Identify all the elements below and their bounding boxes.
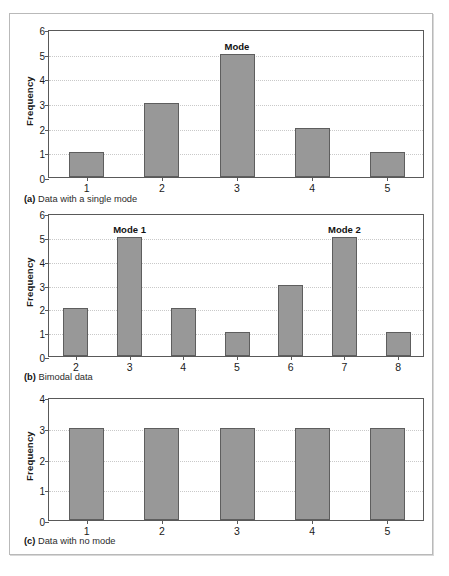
y-axis-tick-mark [45,215,49,216]
y-axis-tick-mark [45,56,49,57]
panel-caption-a: (a) Data with a single mode [24,194,137,204]
y-axis-tick-mark [45,334,49,335]
plot-area-a: 012345612345Mode [48,30,424,178]
x-axis-tick-mark [312,177,313,181]
y-axis-tick-mark [45,287,49,288]
x-axis-tick-mark [398,356,399,360]
x-axis-tick-mark [87,520,88,524]
bar [278,285,303,357]
plot-area-b: 01234562345678Mode 1Mode 2 [48,214,424,357]
bar [63,308,88,356]
x-axis-tick-label: 1 [84,182,90,194]
x-axis-tick-mark [387,520,388,524]
panel-caption-label-c: (c) [24,536,35,546]
figure-frame: Frequency 012345612345Mode (a) Data with… [9,13,433,555]
bar-annotation: Mode 2 [328,224,361,235]
x-axis-tick-label: 5 [384,182,390,194]
chart-panel-a: Frequency 012345612345Mode (a) Data with… [10,18,434,208]
x-axis-tick-label: 3 [127,361,133,373]
x-axis-tick-label: 6 [288,361,294,373]
x-axis-tick-label: 8 [395,361,401,373]
y-axis-tick-mark [45,263,49,264]
y-axis-tick-mark [45,491,49,492]
y-axis-tick-mark [45,130,49,131]
bar [144,103,179,177]
panel-caption-c: (c) Data with no mode [24,536,115,546]
x-axis-tick-label: 4 [309,525,315,537]
bar [332,237,357,356]
x-axis-tick-label: 5 [234,361,240,373]
x-axis-tick-mark [387,177,388,181]
y-axis-tick-mark [45,522,49,523]
y-axis-tick-mark [45,461,49,462]
chart-panel-b: Frequency 01234562345678Mode 1Mode 2 (b)… [10,206,434,390]
panel-caption-text-a: Data with a single mode [35,194,137,204]
x-axis-tick-mark [183,356,184,360]
x-axis-tick-mark [76,356,77,360]
panel-caption-text-b: Bimodal data [36,372,93,382]
bar [370,428,405,520]
gridline [49,287,423,288]
x-axis-tick-mark [237,520,238,524]
x-axis-tick-mark [312,520,313,524]
y-axis-tick-mark [45,179,49,180]
chart-panel-c: Frequency 0123412345 (c) Data with no mo… [10,390,434,552]
bar [117,237,142,356]
y-axis-tick-mark [45,31,49,32]
x-axis-tick-label: 4 [309,182,315,194]
x-axis-tick-label: 3 [234,525,240,537]
gridline [49,239,423,240]
y-axis-tick-mark [45,358,49,359]
bar-annotation: Mode 1 [113,224,146,235]
bar [144,428,179,520]
y-axis-title-c: Frequency [24,431,35,481]
y-axis-tick-mark [45,310,49,311]
x-axis-tick-label: 4 [180,361,186,373]
bar [171,308,196,356]
bar-annotation: Mode [225,41,250,52]
gridline [49,310,423,311]
x-axis-tick-mark [237,356,238,360]
bar [69,152,104,177]
bar [220,428,255,520]
y-axis-tick-mark [45,80,49,81]
x-axis-tick-label: 2 [159,525,165,537]
x-axis-tick-mark [344,356,345,360]
x-axis-tick-mark [130,356,131,360]
x-axis-tick-mark [291,356,292,360]
bar [225,332,250,356]
y-axis-tick-mark [45,430,49,431]
x-axis-tick-mark [87,177,88,181]
x-axis-tick-label: 7 [342,361,348,373]
bar [295,128,330,177]
y-axis-tick-mark [45,154,49,155]
x-axis-tick-mark [162,177,163,181]
x-axis-tick-label: 5 [384,525,390,537]
panel-caption-label-a: (a) [24,194,35,204]
plot-area-c: 0123412345 [48,398,424,521]
panel-caption-b: (b) Bimodal data [24,372,93,382]
x-axis-tick-mark [237,177,238,181]
x-axis-tick-mark [162,520,163,524]
x-axis-tick-label: 3 [234,182,240,194]
y-axis-title-b: Frequency [24,257,35,307]
bar [370,152,405,177]
bar [69,428,104,520]
bar [386,332,411,356]
bar [295,428,330,520]
y-axis-title-a: Frequency [24,76,35,126]
panel-caption-text-c: Data with no mode [35,536,115,546]
x-axis-tick-label: 2 [159,182,165,194]
y-axis-tick-mark [45,105,49,106]
bar [220,54,255,177]
gridline [49,263,423,264]
panel-caption-label-b: (b) [24,372,36,382]
y-axis-tick-mark [45,239,49,240]
y-axis-tick-mark [45,399,49,400]
